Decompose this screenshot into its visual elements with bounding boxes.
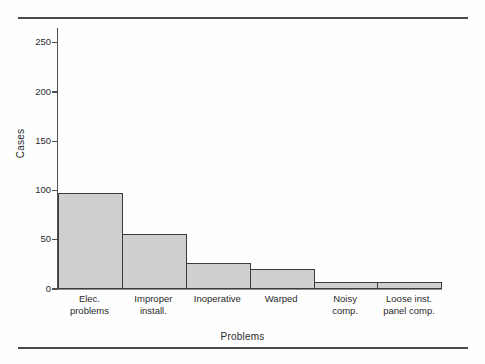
page-rule-top [18, 17, 468, 19]
bar[interactable] [58, 193, 123, 289]
bar[interactable] [121, 234, 186, 289]
x-axis-category-label: Loose inst.panel comp. [367, 293, 451, 316]
figure-page: 050100150200250 Cases Elec.problemsImpro… [0, 0, 485, 364]
bar[interactable] [185, 263, 250, 289]
page-rule-bottom [18, 347, 468, 349]
bar[interactable] [313, 282, 378, 289]
figure-caption [18, 353, 468, 362]
bar[interactable] [377, 282, 442, 289]
category-label-line: Loose inst. [367, 293, 451, 305]
category-label-line: panel comp. [367, 305, 451, 317]
bar[interactable] [249, 269, 314, 289]
x-axis-title: Problems [0, 331, 485, 342]
pareto-chart: 050100150200250 Cases Elec.problemsImpro… [0, 20, 485, 345]
category-label-line: install. [111, 305, 195, 317]
